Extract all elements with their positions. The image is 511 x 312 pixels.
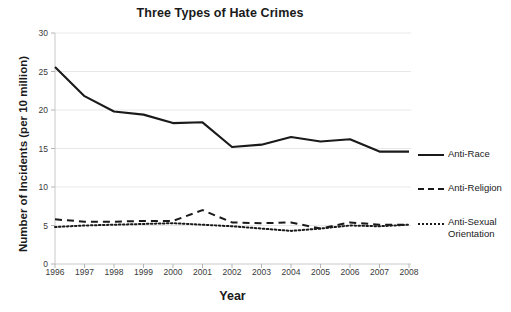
legend-label: Anti-Sexual Orientation <box>448 216 511 240</box>
legend-label: Anti-Religion <box>448 182 511 194</box>
chart-legend: Anti-Race Anti-Religion Anti-Sexual Orie… <box>418 148 511 250</box>
solid-line-icon <box>418 154 444 156</box>
legend-label: Anti-Race <box>448 148 511 160</box>
dashed-line-icon <box>418 188 444 190</box>
gridlines <box>55 33 411 226</box>
legend-item-anti-religion: Anti-Religion <box>418 182 511 216</box>
axis-lines <box>51 33 411 268</box>
legend-item-anti-sexual-orientation: Anti-Sexual Orientation <box>418 216 511 250</box>
legend-item-anti-race: Anti-Race <box>418 148 511 182</box>
chart-container: Three Types of Hate Crimes Number of Inc… <box>0 0 511 312</box>
dotted-line-icon <box>418 223 444 225</box>
